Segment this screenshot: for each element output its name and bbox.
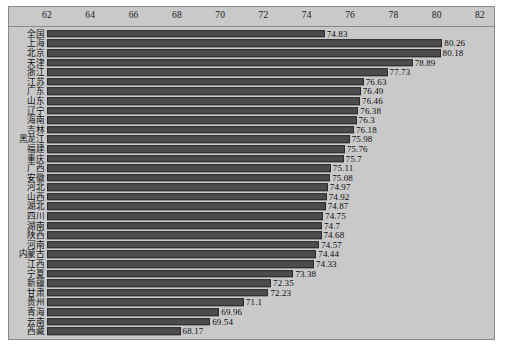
bar	[47, 299, 244, 307]
bar	[47, 155, 344, 163]
bar	[47, 164, 331, 172]
bar	[47, 59, 413, 67]
bar-row: 重庆75.7	[9, 154, 494, 164]
category-label: 云南	[27, 317, 45, 326]
bar-value-label: 80.18	[443, 48, 464, 58]
category-label: 福建	[27, 145, 45, 154]
bar-value-label: 74.75	[325, 211, 346, 221]
category-label: 广东	[27, 87, 45, 96]
chart-frame: 6264666870727476788082 全国74.83上海80.26北京8…	[8, 6, 495, 340]
bar-row: 甘肃72.23	[9, 288, 494, 298]
bar	[47, 251, 316, 259]
bar-row: 浙江77.73	[9, 67, 494, 77]
bar-value-label: 75.08	[332, 173, 353, 183]
bar	[47, 184, 328, 192]
category-label: 广西	[27, 164, 45, 173]
category-label: 辽宁	[27, 106, 45, 115]
bar	[47, 107, 358, 115]
x-tick-label: 62	[42, 10, 52, 20]
bar-value-label: 74.7	[324, 221, 340, 231]
category-label: 重庆	[27, 154, 45, 163]
category-label: 山西	[27, 193, 45, 202]
bar-value-label: 74.68	[324, 230, 345, 240]
bar	[47, 327, 181, 335]
bar-row: 黑龙江75.98	[9, 135, 494, 145]
bar-value-label: 74.33	[316, 259, 337, 269]
category-label: 天津	[27, 58, 45, 67]
bar	[47, 270, 293, 278]
bar-value-label: 69.96	[221, 307, 242, 317]
bar	[47, 68, 388, 76]
category-label: 贵州	[27, 298, 45, 307]
bar-row: 全国74.83	[9, 29, 494, 39]
category-label: 全国	[27, 30, 45, 39]
bar-row: 吉林76.18	[9, 125, 494, 135]
bar-row: 海南76.3	[9, 115, 494, 125]
category-label: 湖南	[27, 221, 45, 230]
x-tick-label: 74	[302, 10, 312, 20]
category-label: 青海	[27, 308, 45, 317]
bar	[47, 174, 330, 182]
category-label: 海南	[27, 116, 45, 125]
bar-value-label: 75.76	[347, 144, 368, 154]
x-tick-label: 64	[85, 10, 95, 20]
bar	[47, 97, 360, 105]
bar-value-label: 76.3	[359, 115, 375, 125]
bar	[47, 222, 322, 230]
category-label: 内蒙古	[19, 250, 45, 259]
bar	[47, 193, 327, 201]
category-label: 吉林	[27, 125, 45, 134]
bar	[47, 231, 322, 239]
bar-row: 山西74.92	[9, 192, 494, 202]
bar-row: 新疆72.35	[9, 278, 494, 288]
x-tick-label: 80	[432, 10, 442, 20]
bar	[47, 279, 271, 287]
bar-row: 江苏76.63	[9, 77, 494, 87]
category-label: 北京	[27, 49, 45, 58]
bar-value-label: 76.38	[360, 106, 381, 116]
bar-row: 宁夏73.38	[9, 269, 494, 279]
bar-row: 安徽75.08	[9, 173, 494, 183]
bar-row: 福建75.76	[9, 144, 494, 154]
category-label: 河南	[27, 241, 45, 250]
bar	[47, 241, 319, 249]
bar	[47, 40, 442, 48]
bar-value-label: 72.23	[270, 288, 291, 298]
bar	[47, 203, 326, 211]
bar	[47, 212, 323, 220]
bar-value-label: 76.46	[362, 96, 383, 106]
bar-value-label: 76.63	[366, 77, 387, 87]
category-label: 宁夏	[27, 269, 45, 278]
bar-value-label: 73.38	[295, 269, 316, 279]
bar-value-label: 69.54	[212, 317, 233, 327]
x-tick-label: 70	[215, 10, 225, 20]
bar-row: 西藏68.17	[9, 326, 494, 336]
bar-row: 北京80.18	[9, 48, 494, 58]
bar	[47, 260, 314, 268]
x-axis: 6264666870727476788082	[9, 7, 494, 27]
bar-value-label: 80.26	[444, 38, 465, 48]
category-label: 甘肃	[27, 289, 45, 298]
bar-row: 江西74.33	[9, 259, 494, 269]
bar	[47, 88, 361, 96]
bar-value-label: 71.1	[246, 297, 262, 307]
bar	[47, 78, 364, 86]
bar-row: 天津78.89	[9, 58, 494, 68]
bar-row: 辽宁76.38	[9, 106, 494, 116]
bar-row: 四川74.75	[9, 211, 494, 221]
bar-value-label: 74.97	[330, 182, 351, 192]
bar-row: 青海69.96	[9, 307, 494, 317]
x-tick-label: 76	[345, 10, 355, 20]
bar-row: 陕西74.68	[9, 230, 494, 240]
bar-row: 上海80.26	[9, 39, 494, 49]
category-label: 江西	[27, 260, 45, 269]
bar-row: 广东76.49	[9, 87, 494, 97]
bar-value-label: 74.57	[321, 240, 342, 250]
bar-value-label: 74.87	[328, 201, 349, 211]
bar	[47, 49, 441, 57]
bar-value-label: 78.89	[415, 58, 436, 68]
category-label: 河北	[27, 183, 45, 192]
x-tick-label: 78	[388, 10, 398, 20]
bar-value-label: 77.73	[390, 67, 411, 77]
category-label: 西藏	[27, 327, 45, 336]
